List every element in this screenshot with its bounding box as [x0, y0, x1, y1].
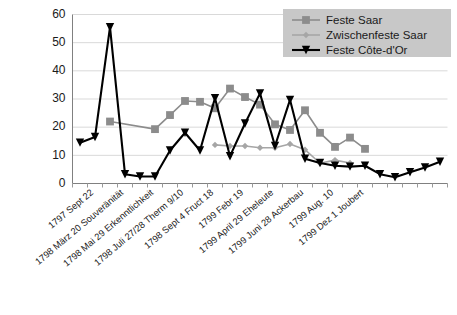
y-tick-label: 40 [52, 63, 66, 77]
y-tick-label: 30 [52, 91, 66, 105]
data-point-marker-square [316, 129, 324, 137]
y-tick-label: 50 [52, 35, 66, 49]
y-tick-label: 10 [52, 148, 66, 162]
data-point-marker-square [301, 106, 309, 114]
data-point-marker-square [361, 145, 369, 153]
data-point-marker-square [286, 126, 294, 134]
data-point-marker-square [226, 85, 234, 93]
data-point-marker-square [346, 134, 354, 142]
legend-item-label: Feste Côte-d'Or [326, 44, 408, 56]
legend-item-label: Feste Saar [326, 14, 382, 26]
data-point-marker-square [151, 125, 159, 133]
y-tick-label: 0 [59, 176, 66, 190]
data-point-marker-square [196, 98, 204, 106]
data-point-marker-square [241, 93, 249, 101]
data-point-marker-square [271, 120, 279, 128]
chart-legend: Feste SaarZwischenfeste SaarFeste Côte-d… [283, 9, 451, 57]
y-tick-label: 20 [52, 119, 66, 133]
data-point-marker-square [181, 97, 189, 105]
data-point-marker-square [166, 111, 174, 119]
y-tick-label: 60 [52, 7, 66, 21]
legend-item-label: Zwischenfeste Saar [326, 29, 427, 41]
data-point-marker-square [106, 118, 114, 126]
chart-container: 0102030405060 Feste SaarZwischenfeste Sa… [0, 0, 457, 315]
line-chart: 0102030405060 Feste SaarZwischenfeste Sa… [0, 0, 457, 315]
data-point-marker-square [331, 143, 339, 151]
data-point-marker-square [302, 16, 310, 24]
